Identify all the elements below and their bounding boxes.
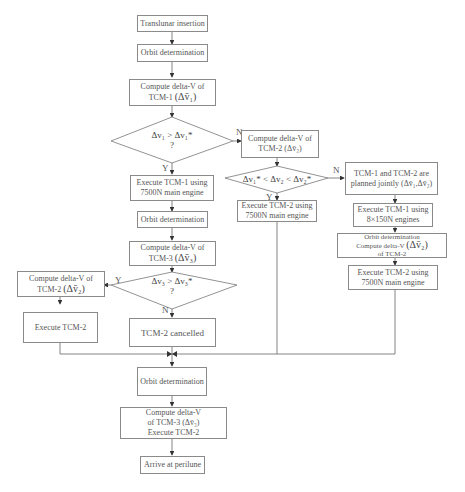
node-label: Execute TCM-2 bbox=[35, 323, 87, 333]
node-label-2: TCM-2 (Δv̄₂) bbox=[37, 284, 85, 295]
no-label: N bbox=[333, 165, 340, 175]
node-text: TCM-2 bbox=[258, 144, 282, 153]
tcm2-cancelled-node: TCM-2 cancelled bbox=[129, 318, 216, 347]
decision-3-text: Δv₃ > Δv₃*? bbox=[130, 276, 214, 296]
node-label: Execute TCM-1 using bbox=[358, 205, 429, 215]
compute-tcm3-node: Compute delta-V of TCM-3 (Δv̄₃) bbox=[129, 241, 216, 266]
orbit-det-compute-tcm2-node: Orbit determination Compute delta-V (Δv̄… bbox=[337, 233, 447, 258]
execute-tcm2-right-node: Execute TCM-2 using7500N main engine bbox=[348, 265, 438, 290]
execute-tcm2-mid-node: Execute TCM-2 using7500N main engine bbox=[237, 200, 317, 222]
node-label: Orbit determination bbox=[141, 215, 204, 225]
no-label: N bbox=[162, 305, 169, 315]
node-label-2: 7500N main engine bbox=[140, 188, 203, 198]
execute-tcm2-left-node: Execute TCM-2 bbox=[23, 312, 98, 343]
node-label-2: TCM-3 (Δv̄₃) bbox=[149, 253, 197, 264]
yes-label: Y bbox=[162, 163, 169, 173]
decision-1-text: Δv₁ > Δv₁*? bbox=[130, 130, 214, 150]
joint-planning-node: TCM-1 and TCM-2 are planned jointly (Δv̄… bbox=[345, 162, 438, 195]
node-label-3: of TCM-2 bbox=[378, 250, 406, 258]
compute-tcm2-left-node: Compute delta-V of TCM-2 (Δv̄₂) bbox=[17, 271, 105, 297]
node-label-2: of TCM-3 (Δv̄₃) bbox=[148, 418, 200, 428]
node-text: Compute delta-V bbox=[356, 242, 404, 250]
yes-label: Y bbox=[115, 275, 122, 285]
node-label-2: 7500N main engine bbox=[245, 211, 308, 221]
orbit-determination-node-3: Orbit determination bbox=[137, 367, 207, 396]
node-label: Execute TCM-2 using bbox=[242, 201, 313, 211]
decision-expr: Δv₁ > Δv₁* bbox=[130, 130, 214, 140]
execute-tcm1-node: Execute TCM-1 using7500N main engine bbox=[130, 175, 214, 201]
node-label-2: Compute delta-V (Δv̄₂) bbox=[356, 241, 428, 250]
node-label: Translunar insertion bbox=[140, 19, 204, 29]
node-label-2: TCM-1 (Δv̄₁) bbox=[149, 92, 197, 103]
math-symbol: (Δv̄₂) bbox=[406, 239, 428, 250]
node-label-3: Execute TCM-2 bbox=[148, 428, 200, 438]
orbit-determination-node-2: Orbit determination bbox=[137, 211, 208, 228]
decision-expr: Δv₃ > Δv₃* bbox=[130, 276, 214, 286]
math-symbol: (Δv̄₁,Δv̄₂) bbox=[401, 179, 432, 188]
math-symbol: (Δv̄₁) bbox=[175, 91, 197, 102]
translunar-insertion-node: Translunar insertion bbox=[137, 15, 208, 32]
math-symbol: (Δv̄₂) bbox=[63, 283, 85, 294]
node-label: Execute TCM-1 using bbox=[137, 178, 208, 188]
decision-question: ? bbox=[130, 140, 214, 150]
node-label: TCM-1 and TCM-2 are bbox=[354, 169, 429, 179]
node-text: TCM-3 bbox=[149, 254, 173, 263]
node-label: TCM-2 cancelled bbox=[141, 328, 204, 338]
node-label: Arrive at perilune bbox=[144, 460, 201, 470]
node-label: Orbit determination bbox=[140, 377, 203, 387]
node-label-2: 8×150N engines bbox=[367, 215, 420, 225]
compute-tcm3-execute-node: Compute delta-V of TCM-3 (Δv̄₃) Execute … bbox=[120, 407, 227, 439]
node-label: Execute TCM-2 using bbox=[358, 268, 429, 278]
node-label-2: planned jointly (Δv̄₁,Δv̄₂) bbox=[351, 179, 432, 189]
node-text: TCM-2 bbox=[37, 285, 61, 294]
math-symbol: (Δv̄₂) bbox=[284, 144, 301, 153]
orbit-determination-node-1: Orbit determination bbox=[137, 44, 208, 62]
node-label-2: TCM-2 (Δv̄₂) bbox=[258, 144, 301, 154]
node-label: Compute delta-V of bbox=[248, 134, 312, 144]
compute-tcm2-right-node: Compute delta-V of TCM-2 (Δv̄₂) bbox=[241, 130, 319, 158]
node-label-2: 7500N main engine bbox=[361, 278, 424, 288]
arrive-perilune-node: Arrive at perilune bbox=[140, 456, 205, 474]
math-symbol: (Δv̄₃) bbox=[175, 252, 197, 263]
compute-tcm1-node: Compute delta-V of TCM-1 (Δv̄₁) bbox=[129, 79, 216, 106]
decision-2-text: Δv₁* < Δv₂ < Δv₂* bbox=[232, 174, 322, 184]
node-label: Compute delta-V bbox=[146, 408, 201, 418]
node-text: TCM-1 bbox=[149, 93, 173, 102]
node-label: Orbit determination bbox=[141, 48, 204, 58]
node-text: planned jointly bbox=[351, 179, 399, 188]
decision-expr: Δv₁* < Δv₂ < Δv₂* bbox=[232, 174, 322, 184]
execute-tcm1-small-node: Execute TCM-1 using8×150N engines bbox=[353, 203, 433, 227]
decision-question: ? bbox=[130, 286, 214, 296]
